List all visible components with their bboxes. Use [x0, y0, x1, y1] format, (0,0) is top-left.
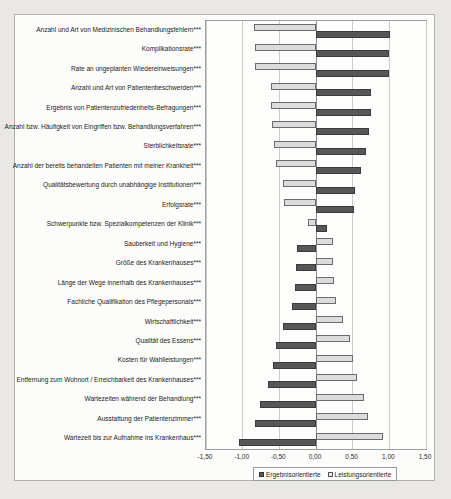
bar-leistungsorientierte [254, 24, 316, 31]
category-label: Sauberkeit und Hygiene*** [124, 240, 201, 248]
bar-leistungsorientierte [316, 355, 353, 362]
bar-leistungsorientierte [274, 141, 316, 148]
chart-frame: Anzahl und Art von Medizinischen Behandl… [14, 14, 435, 481]
gridline [352, 21, 353, 449]
bar-ergebnisorientierte [316, 225, 327, 232]
bar-ergebnisorientierte [316, 167, 361, 174]
bar-ergebnisorientierte [260, 401, 316, 408]
x-tick-label: -0,50 [264, 452, 292, 461]
x-tick-label: -1,00 [228, 452, 256, 461]
gridline [426, 21, 427, 449]
category-label: Anzahl und Art von Medizinischen Behandl… [36, 26, 201, 34]
bar-leistungsorientierte [276, 160, 316, 167]
category-label: Größe des Krankenhauses*** [116, 259, 201, 267]
bar-leistungsorientierte [316, 433, 383, 440]
x-tick-label: 0,00 [301, 452, 329, 461]
plot-area [205, 20, 427, 450]
bar-ergebnisorientierte [276, 342, 316, 349]
bar-ergebnisorientierte [292, 303, 316, 310]
bar-ergebnisorientierte [296, 264, 316, 271]
category-label: Rate an ungeplanten Wiedereinweisungen**… [71, 65, 201, 73]
bar-ergebnisorientierte [297, 245, 316, 252]
bar-ergebnisorientierte [255, 420, 316, 427]
bar-ergebnisorientierte [316, 89, 371, 96]
category-label: Schwerpunkte bzw. Spezialkompetenzen der… [47, 220, 201, 228]
category-label: Wartezeit bis zur Aufnahme ins Krankenha… [64, 434, 201, 442]
bar-leistungsorientierte [284, 199, 316, 206]
category-label: Komplikationsrate*** [142, 45, 201, 53]
x-tick-label: 1,50 [411, 452, 439, 461]
legend-item-leistungsorientierte: Leistungsorientierte [328, 471, 392, 478]
bar-ergebnisorientierte [268, 381, 316, 388]
bar-leistungsorientierte [316, 394, 364, 401]
bar-leistungsorientierte [316, 277, 334, 284]
legend-label: Leistungsorientierte [335, 471, 392, 478]
bar-leistungsorientierte [255, 44, 316, 51]
category-axis: Anzahl und Art von Medizinischen Behandl… [17, 20, 201, 448]
bar-leistungsorientierte [283, 180, 316, 187]
bar-leistungsorientierte [272, 121, 316, 128]
x-tick-label: -1,50 [191, 452, 219, 461]
bar-leistungsorientierte [316, 258, 333, 265]
bar-leistungsorientierte [271, 83, 316, 90]
bar-ergebnisorientierte [273, 362, 316, 369]
x-axis: -1,50-1,00-0,500,000,501,001,50 [205, 452, 425, 462]
category-label: Anzahl bzw. Häufigkeit von Eingriffen bz… [5, 123, 201, 131]
bar-leistungsorientierte [316, 316, 343, 323]
category-label: Ergebnis von Patientenzufriedenheits-Bef… [46, 104, 201, 112]
bar-ergebnisorientierte [316, 206, 354, 213]
bar-leistungsorientierte [316, 297, 336, 304]
category-label: Entfernung zum Wohnort / Erreichbarkeit … [16, 376, 201, 384]
category-label: Länge der Wege innerhalb des Krankenhaus… [58, 279, 201, 287]
bar-leistungsorientierte [255, 63, 316, 70]
category-label: Sterblichkeitsrate*** [144, 142, 201, 150]
category-label: Qualitätsbewertung durch unabhängige Ins… [43, 181, 201, 189]
bar-ergebnisorientierte [316, 128, 369, 135]
bar-leistungsorientierte [316, 413, 368, 420]
category-label: Qualität des Essens*** [136, 337, 201, 345]
category-label: Wirtschaftlichkeit*** [145, 318, 201, 326]
bar-ergebnisorientierte [316, 187, 355, 194]
category-label: Anzahl der bereits behandelten Patienten… [13, 162, 201, 170]
bar-leistungsorientierte [308, 219, 316, 226]
bar-ergebnisorientierte [295, 284, 316, 291]
gridline [389, 21, 390, 449]
legend-label: Ergebnisorientierte [266, 471, 321, 478]
category-label: Ausstattung der Patientenzimmer*** [97, 415, 201, 423]
category-label: Kosten für Wahlleistungen*** [118, 356, 201, 364]
bar-leistungsorientierte [316, 335, 350, 342]
legend-swatch-dark-icon [259, 472, 264, 477]
category-label: Erfolgsrate*** [162, 201, 201, 209]
bar-ergebnisorientierte [316, 109, 371, 116]
legend-item-ergebnisorientierte: Ergebnisorientierte [259, 471, 321, 478]
category-label: Fachliche Qualifikation des Pflegeperson… [67, 298, 201, 306]
bar-ergebnisorientierte [283, 323, 316, 330]
category-label: Wartezeiten während der Behandlung*** [85, 395, 201, 403]
gridline [242, 21, 243, 449]
x-tick-label: 1,00 [374, 452, 402, 461]
gridline [206, 21, 207, 449]
legend: Ergebnisorientierte Leistungsorientierte [253, 467, 397, 481]
x-tick-label: 0,50 [338, 452, 366, 461]
bar-leistungsorientierte [316, 238, 333, 245]
bar-ergebnisorientierte [239, 439, 316, 446]
bar-ergebnisorientierte [316, 148, 366, 155]
bar-leistungsorientierte [271, 102, 316, 109]
bar-leistungsorientierte [316, 374, 357, 381]
bar-ergebnisorientierte [316, 50, 389, 57]
bar-ergebnisorientierte [316, 31, 390, 38]
bar-ergebnisorientierte [316, 70, 389, 77]
category-label: Anzahl und Art von Patientenbeschwerden*… [71, 84, 201, 92]
legend-swatch-light-icon [328, 472, 333, 477]
